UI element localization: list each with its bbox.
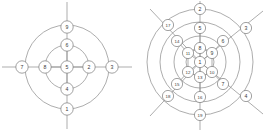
node-8[interactable]: 8 (39, 61, 51, 73)
node-14[interactable]: 14 (171, 35, 182, 46)
right-diagram-group: 12345678910111213141516171819 (147, 1, 263, 130)
node-circle-16[interactable] (194, 91, 205, 102)
node-circle-4[interactable] (240, 90, 251, 101)
node-15[interactable]: 15 (171, 78, 182, 89)
node-9[interactable]: 9 (206, 47, 217, 58)
node-circle-11[interactable] (182, 47, 193, 58)
node-circle-1[interactable] (61, 103, 73, 115)
node-5[interactable]: 5 (194, 22, 205, 33)
left-diagram-group: 123456789 (2, 2, 132, 129)
node-11[interactable]: 11 (182, 47, 193, 58)
node-1[interactable]: 1 (61, 103, 73, 115)
diagram-canvas: 123456789 12345678910111213141516171819 (0, 0, 268, 131)
node-circle-4[interactable] (61, 83, 73, 95)
node-3[interactable]: 3 (240, 22, 251, 33)
node-circle-9[interactable] (61, 21, 73, 33)
node-19[interactable]: 19 (194, 109, 205, 120)
node-circle-6[interactable] (217, 35, 228, 46)
node-circle-1[interactable] (194, 56, 205, 67)
node-circle-2[interactable] (194, 3, 205, 14)
node-circle-8[interactable] (194, 42, 205, 53)
node-circle-7[interactable] (217, 78, 228, 89)
node-7[interactable]: 7 (217, 78, 228, 89)
node-2[interactable]: 2 (83, 61, 95, 73)
node-4[interactable]: 4 (61, 83, 73, 95)
node-16[interactable]: 16 (194, 91, 205, 102)
node-circle-13[interactable] (194, 71, 205, 82)
node-circle-14[interactable] (171, 35, 182, 46)
node-10[interactable]: 10 (206, 66, 217, 77)
node-circle-19[interactable] (194, 109, 205, 120)
node-13[interactable]: 13 (194, 71, 205, 82)
node-circle-6[interactable] (61, 39, 73, 51)
node-circle-8[interactable] (39, 61, 51, 73)
node-circle-15[interactable] (171, 78, 182, 89)
node-6[interactable]: 6 (217, 35, 228, 46)
node-3[interactable]: 3 (106, 61, 118, 73)
node-6[interactable]: 6 (61, 39, 73, 51)
node-4[interactable]: 4 (240, 90, 251, 101)
node-12[interactable]: 12 (182, 66, 193, 77)
node-2[interactable]: 2 (194, 3, 205, 14)
node-circle-3[interactable] (106, 61, 118, 73)
node-circle-5[interactable] (61, 61, 73, 73)
node-circle-5[interactable] (194, 22, 205, 33)
node-18[interactable]: 18 (162, 90, 173, 101)
node-circle-18[interactable] (162, 90, 173, 101)
node-8[interactable]: 8 (194, 42, 205, 53)
node-circle-17[interactable] (162, 19, 173, 30)
node-circle-9[interactable] (206, 47, 217, 58)
node-circle-7[interactable] (16, 61, 28, 73)
graph-figure: 123456789 12345678910111213141516171819 (0, 0, 268, 131)
node-circle-2[interactable] (83, 61, 95, 73)
node-7[interactable]: 7 (16, 61, 28, 73)
node-circle-3[interactable] (240, 22, 251, 33)
node-1[interactable]: 1 (194, 56, 205, 67)
node-17[interactable]: 17 (162, 19, 173, 30)
node-5[interactable]: 5 (61, 61, 73, 73)
node-9[interactable]: 9 (61, 21, 73, 33)
node-circle-10[interactable] (206, 66, 217, 77)
node-circle-12[interactable] (182, 66, 193, 77)
